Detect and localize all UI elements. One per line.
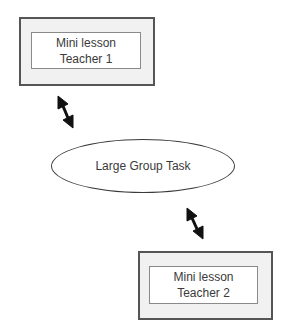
- large-group-task-label: Large Group Task: [95, 159, 190, 173]
- teacher-1-line-1: Mini lesson: [56, 35, 116, 51]
- teacher-1-box: Mini lesson Teacher 1: [19, 17, 155, 86]
- teacher-1-line-2: Teacher 1: [60, 51, 113, 67]
- teacher-2-box: Mini lesson Teacher 2: [138, 251, 273, 320]
- large-group-task-ellipse: Large Group Task: [51, 139, 235, 193]
- teacher-2-line-2: Teacher 2: [177, 285, 230, 301]
- teacher-1-label-box: Mini lesson Teacher 1: [31, 32, 141, 69]
- teacher-2-line-1: Mini lesson: [173, 269, 233, 285]
- double-arrow-icon-top: [58, 96, 73, 128]
- double-arrow-icon-bottom: [187, 208, 203, 239]
- teacher-2-label-box: Mini lesson Teacher 2: [149, 266, 258, 304]
